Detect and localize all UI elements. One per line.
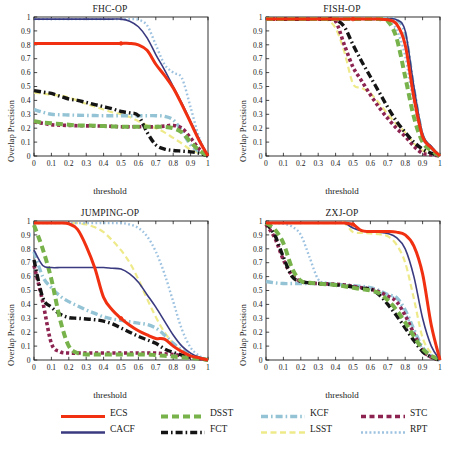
svg-text:0.8: 0.8 [168,363,178,372]
svg-text:0.9: 0.9 [186,159,196,168]
svg-text:0.8: 0.8 [253,41,263,50]
legend-label: DSST [210,408,250,418]
svg-text:0.5: 0.5 [21,82,31,91]
figure-overlap-precision-plots: FHC-OP Overlap Precision 00.10.20.30.40.… [0,0,458,451]
svg-text:1: 1 [438,159,442,168]
svg-text:0.1: 0.1 [279,363,289,372]
legend-item-rpt[interactable]: RPT [360,421,450,437]
legend-item-ecs[interactable]: ECS [60,405,150,421]
x-axis-label: threshold [4,186,216,196]
svg-text:0.3: 0.3 [253,110,263,119]
svg-text:0.4: 0.4 [21,96,31,105]
svg-text:0.1: 0.1 [253,138,263,147]
legend-swatch-cacf [60,427,106,438]
plot-area: 00.10.20.30.40.50.60.70.80.9100.10.20.30… [4,217,216,382]
plot-area: 00.10.20.30.40.50.60.70.80.9100.10.20.30… [236,13,448,178]
svg-text:1: 1 [259,13,263,22]
svg-text:0.2: 0.2 [296,363,306,372]
svg-text:0.8: 0.8 [253,245,263,254]
svg-text:0.4: 0.4 [99,363,109,372]
x-axis-label: threshold [4,390,216,400]
legend-item-dsst[interactable]: DSST [160,405,250,421]
legend-label: KCF [310,408,350,418]
svg-text:0.1: 0.1 [21,138,31,147]
svg-text:0.3: 0.3 [253,314,263,323]
svg-text:0: 0 [264,159,268,168]
legend-swatch-fct [160,427,206,438]
legend-label: ECS [110,408,150,418]
svg-text:0.6: 0.6 [253,272,263,281]
plot-area: 00.10.20.30.40.50.60.70.80.9100.10.20.30… [236,217,448,382]
chart-panel-fish-op: FISH-OP Overlap Precision 00.10.20.30.40… [236,4,448,200]
svg-text:0.1: 0.1 [47,159,57,168]
plot-area: 00.10.20.30.40.50.60.70.80.9100.10.20.30… [4,13,216,178]
legend-line-sample [360,408,406,419]
legend-row: CACFFCTLSSTRPT [60,421,410,437]
svg-text:0: 0 [27,356,31,365]
svg-text:1: 1 [206,363,210,372]
svg-text:0.6: 0.6 [366,159,376,168]
svg-text:0.8: 0.8 [21,41,31,50]
svg-text:0.8: 0.8 [400,363,410,372]
legend-line-sample [260,408,306,419]
svg-text:0.5: 0.5 [348,159,358,168]
svg-text:0.6: 0.6 [134,159,144,168]
svg-text:0.7: 0.7 [253,258,263,267]
svg-text:1: 1 [27,217,31,226]
legend-row: ECSDSSTKCFSTC [60,405,410,421]
svg-text:0.7: 0.7 [253,54,263,63]
svg-text:0.4: 0.4 [331,363,341,372]
legend-line-sample [160,424,206,435]
svg-text:0.5: 0.5 [21,286,31,295]
svg-text:0: 0 [32,159,36,168]
svg-text:1: 1 [259,217,263,226]
svg-text:0.5: 0.5 [116,159,126,168]
svg-text:0.3: 0.3 [21,314,31,323]
svg-text:0.7: 0.7 [383,363,393,372]
svg-text:0.3: 0.3 [21,110,31,119]
legend-item-lsst[interactable]: LSST [260,421,350,437]
svg-text:0.9: 0.9 [253,27,263,36]
svg-text:1: 1 [27,13,31,22]
svg-text:0.5: 0.5 [116,363,126,372]
legend-label: FCT [210,424,250,434]
svg-text:0.3: 0.3 [81,363,91,372]
svg-text:0.8: 0.8 [168,159,178,168]
svg-text:1: 1 [206,159,210,168]
legend-item-stc[interactable]: STC [360,405,450,421]
svg-text:0.3: 0.3 [313,363,323,372]
legend-item-fct[interactable]: FCT [160,421,250,437]
svg-text:0.4: 0.4 [21,300,31,309]
svg-text:0.8: 0.8 [21,245,31,254]
legend-swatch-rpt [360,427,406,438]
svg-text:0.7: 0.7 [21,54,31,63]
svg-text:0.2: 0.2 [296,159,306,168]
legend-swatch-ecs [60,411,106,422]
chart-panel-jumping-op: JUMPING-OP Overlap Precision 00.10.20.30… [4,208,216,404]
svg-text:0: 0 [32,363,36,372]
legend-item-kcf[interactable]: KCF [260,405,350,421]
svg-text:0.1: 0.1 [47,363,57,372]
svg-text:0.3: 0.3 [313,159,323,168]
legend-line-sample [60,424,106,435]
legend-swatch-lsst [260,427,306,438]
x-axis-label: threshold [236,186,448,196]
svg-text:0.2: 0.2 [21,328,31,337]
svg-text:0.3: 0.3 [81,159,91,168]
svg-text:0.9: 0.9 [186,363,196,372]
svg-text:0.1: 0.1 [279,159,289,168]
svg-text:0.7: 0.7 [21,258,31,267]
legend-line-sample [360,424,406,435]
svg-text:0.9: 0.9 [21,231,31,240]
svg-text:0.6: 0.6 [21,68,31,77]
svg-text:0.7: 0.7 [151,159,161,168]
svg-text:0.1: 0.1 [253,342,263,351]
svg-text:0.7: 0.7 [151,363,161,372]
svg-text:0.6: 0.6 [366,363,376,372]
legend-label: CACF [110,424,150,434]
svg-text:0.8: 0.8 [400,159,410,168]
legend-item-cacf[interactable]: CACF [60,421,150,437]
legend-line-sample [160,408,206,419]
svg-text:0.6: 0.6 [134,363,144,372]
x-axis-label: threshold [236,390,448,400]
